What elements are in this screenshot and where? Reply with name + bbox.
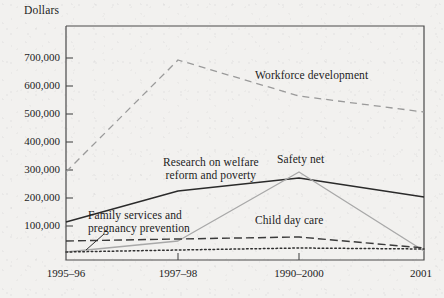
x-axis-ticks (178, 253, 299, 260)
series-label-safety-net: Safety net (277, 153, 324, 166)
family-services-leader-line (86, 234, 104, 250)
series-label-line-2: reform and poverty (163, 169, 259, 182)
series-label-line-2: pregnancy prevention (88, 222, 190, 235)
y-axis-ticks (66, 58, 73, 226)
series-label-line-1: Family services and (88, 209, 190, 222)
series-label-family-services-pregnancy-prevention: Family services and pregnancy prevention (88, 209, 190, 235)
chart-figure: Dollars 700,000 600,000 500,000 400,000 … (0, 0, 444, 298)
x-tick-label-2001: 2001 (410, 267, 432, 279)
series-label-child-day-care: Child day care (255, 214, 323, 227)
series-label-research-welfare-reform: Research on welfare reform and poverty (163, 156, 259, 182)
series-line-family-services-pregnancy-prevention (66, 248, 424, 252)
x-tick-label-1997-98: 1997–98 (159, 267, 198, 279)
chart-canvas (0, 0, 444, 298)
x-tick-label-1990-2000: 1990–2000 (274, 267, 324, 279)
series-label-line-1: Research on welfare (163, 156, 259, 169)
series-label-workforce-development: Workforce development (255, 69, 368, 82)
x-tick-label-1995-96: 1995–96 (47, 267, 86, 279)
